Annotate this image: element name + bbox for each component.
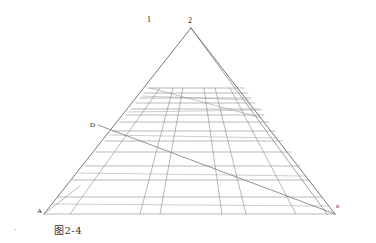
perspective-grid-diagram — [0, 0, 376, 243]
right-convergence-line-2 — [191, 28, 327, 214]
corner-diagonal-line — [44, 186, 80, 214]
horizontal-grid-lines — [44, 88, 335, 214]
label-a: A — [37, 208, 42, 215]
receding-grid-lines — [70, 88, 296, 214]
figure-caption: 图2-4 — [54, 222, 82, 237]
right-convergence-line — [191, 28, 335, 214]
left-convergence-line — [44, 28, 191, 214]
label-1: 1 — [147, 16, 151, 24]
label-d: D — [90, 122, 95, 129]
label-apex: 2 — [188, 17, 192, 25]
label-b: B — [336, 204, 339, 209]
diagonal-line-d-to-b — [98, 125, 335, 214]
margin-mark: • — [14, 227, 16, 232]
